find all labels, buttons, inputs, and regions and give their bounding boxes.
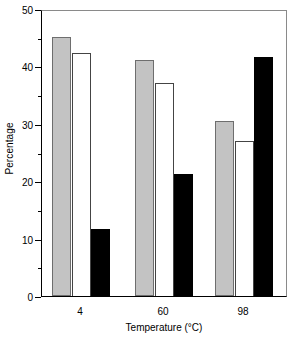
bar-60-black: [174, 174, 193, 296]
y-tick-major-mark: [35, 297, 41, 298]
x-tick-label: 98: [237, 306, 248, 317]
bar-60-gray: [135, 60, 154, 296]
y-tick-label: 50: [22, 5, 33, 16]
x-axis-title: Temperature (°C): [41, 322, 287, 333]
x-tick-label: 60: [157, 306, 168, 317]
bar-98-black: [254, 57, 273, 296]
y-axis-ticks: 01020304050: [0, 0, 41, 344]
bar-4-gray: [52, 37, 71, 296]
x-tick-label: 4: [77, 306, 83, 317]
y-tick-label: 30: [22, 119, 33, 130]
bar-layer: [42, 11, 286, 296]
y-tick-label: 20: [22, 177, 33, 188]
bar-98-white: [235, 141, 254, 296]
y-tick-label: 40: [22, 62, 33, 73]
bar-chart-figure: Percentage 01020304050 46098 Temperature…: [0, 0, 295, 344]
bar-98-gray: [215, 121, 234, 296]
bar-60-white: [155, 83, 174, 296]
bar-4-black: [91, 229, 110, 296]
x-axis-ticks: 46098: [0, 299, 295, 321]
plot-area: [41, 10, 287, 297]
y-tick-label: 10: [22, 234, 33, 245]
bar-4-white: [72, 53, 91, 296]
